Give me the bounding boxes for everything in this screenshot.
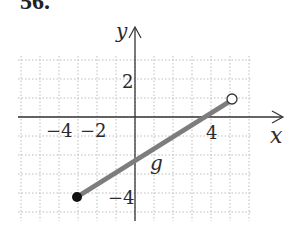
function-graph: x y −4 −2 4 2 −4 g <box>0 0 290 233</box>
closed-endpoint <box>72 192 82 202</box>
y-tick-label: 2 <box>122 71 133 92</box>
y-axis-label: y <box>115 19 128 43</box>
x-tick-label: −4 <box>46 120 73 141</box>
x-axis-label: x <box>270 123 283 148</box>
x-tick-label: −2 <box>80 120 107 141</box>
function-label-g: g <box>150 151 163 175</box>
y-tick-label: −4 <box>108 187 135 208</box>
x-tick-label: 4 <box>206 122 217 143</box>
open-endpoint <box>227 94 237 104</box>
